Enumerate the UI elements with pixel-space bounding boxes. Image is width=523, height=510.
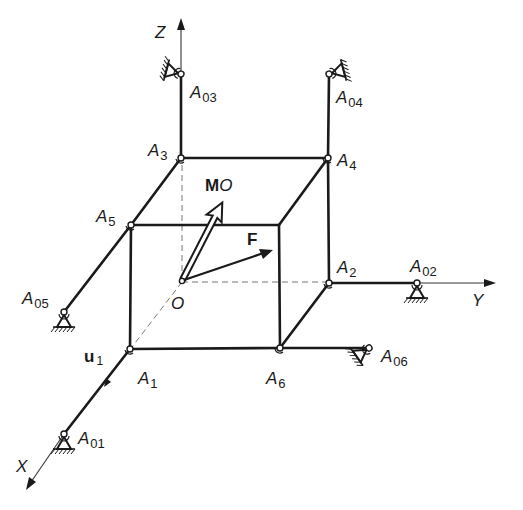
origin-point (179, 278, 184, 283)
moment-vector-arrow-icon (175, 199, 229, 283)
support-a06-label: A06 (380, 347, 408, 369)
unit-vector-label: u1 (84, 347, 103, 368)
support-a05-label: A05 (21, 289, 49, 311)
frame-members (64, 75, 417, 434)
hinge-a1-icon (125, 346, 133, 354)
diagram-canvas: Z Y X O MO F u1 A1 A2 A3 A4 A5 A6 A01 A0… (0, 0, 523, 510)
origin-label: O (171, 294, 184, 313)
support-a03-label: A03 (189, 83, 217, 105)
joint-a4-label: A4 (336, 151, 357, 173)
hinge-a3-icon (176, 155, 184, 163)
x-axis-label: X (15, 457, 28, 476)
edge-a1-a6 (130, 348, 280, 349)
y-axis-label: Y (472, 291, 485, 310)
support-a04-label: A04 (335, 88, 363, 110)
bar-a5-a05 (64, 225, 131, 312)
x-axis (31, 434, 64, 482)
support-a01-icon (51, 431, 75, 454)
edge-front-right (279, 225, 280, 348)
support-a03-icon (159, 56, 187, 85)
joint-a1-label: A1 (137, 369, 158, 391)
z-axis-label: Z (154, 23, 166, 42)
support-a02-label: A02 (409, 257, 437, 279)
force-label: F (247, 230, 257, 249)
support-a06-icon (345, 336, 378, 369)
moment-label: MO (205, 176, 232, 195)
edge-a4-a2 (328, 158, 329, 283)
joint-a5-label: A5 (95, 207, 116, 229)
support-a01-label: A01 (77, 429, 105, 451)
edge-a3-a5 (131, 158, 181, 225)
frame-diagram: Z Y X O MO F u1 A1 A2 A3 A4 A5 A6 A01 A0… (0, 0, 523, 510)
edge-a5-a1 (130, 225, 131, 349)
edge-a2-a6 (280, 283, 329, 348)
joint-a2-label: A2 (336, 258, 357, 280)
y-axis-arrow-icon (484, 279, 496, 287)
edge-a4-front (279, 158, 328, 225)
hidden-x-edge (132, 282, 182, 347)
z-axis-arrow-icon (177, 18, 185, 30)
force-vector-arrow-icon (259, 249, 273, 259)
bar-a04-a4 (328, 75, 329, 158)
x-axis-arrow-icon (26, 477, 36, 490)
joint-a6-label: A6 (265, 369, 286, 391)
support-a05-icon (51, 309, 75, 332)
hinge-a2-icon (324, 280, 332, 288)
joint-a3-label: A3 (147, 141, 168, 163)
support-a04-icon (323, 58, 351, 87)
